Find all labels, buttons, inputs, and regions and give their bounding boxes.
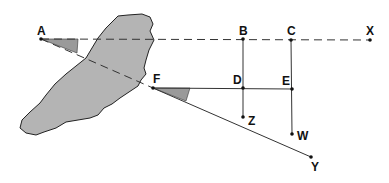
- line-FY: [153, 88, 311, 157]
- label-X: X: [366, 24, 374, 38]
- label-E: E: [282, 74, 290, 88]
- label-D: D: [233, 73, 242, 87]
- label-Z: Z: [248, 114, 255, 128]
- label-F: F: [153, 72, 160, 86]
- label-A: A: [37, 24, 46, 38]
- label-W: W: [297, 129, 309, 143]
- line-CW: [291, 40, 292, 134]
- surveying-diagram: A B C X F D E Z W Y: [0, 0, 389, 183]
- line-AX: [41, 39, 370, 40]
- label-C: C: [287, 24, 296, 38]
- label-Y: Y: [311, 160, 319, 174]
- label-B: B: [239, 24, 248, 38]
